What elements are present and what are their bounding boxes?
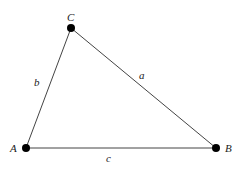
side-b-label: b <box>34 76 40 88</box>
triangle-diagram: C A B b a c <box>0 0 240 169</box>
vertex-a-label: A <box>9 142 17 154</box>
side-a-label: a <box>139 69 145 81</box>
side-b <box>26 28 71 148</box>
vertex-c-label: C <box>67 11 75 23</box>
vertex-a-point <box>22 144 30 152</box>
vertex-b-label: B <box>225 142 232 154</box>
side-a <box>71 28 216 148</box>
vertex-c-point <box>67 24 75 32</box>
vertex-b-point <box>212 144 220 152</box>
side-c-label: c <box>106 152 111 164</box>
